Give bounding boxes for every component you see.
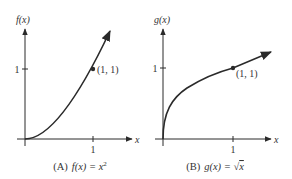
panel-a: 1 1 x f(x) (1, 1) (A)f(x) = x2 — [15, 14, 141, 173]
curve-f-x-squared — [25, 31, 110, 139]
y-tick-label-b: 1 — [153, 63, 158, 74]
caption-b: (B)g(x) = √x — [186, 161, 244, 173]
curve-g-sqrt-x — [163, 52, 271, 139]
x-axis-label-b: x — [273, 134, 279, 145]
y-tick-label-a: 1 — [15, 64, 20, 75]
y-axis-label-b: g(x) — [154, 14, 171, 26]
x-axis-label-a: x — [134, 134, 140, 145]
point-label-b: (1, 1) — [236, 68, 258, 80]
point-1-1-a — [91, 67, 95, 71]
x-tick-label-a: 1 — [91, 144, 96, 155]
x-tick-label-b: 1 — [231, 144, 236, 155]
point-1-1-b — [231, 66, 235, 70]
panel-b: 1 1 x g(x) (1, 1) (B)g(x) = √x — [153, 14, 280, 173]
point-label-a: (1, 1) — [97, 64, 119, 76]
y-axis-label-a: f(x) — [16, 14, 31, 26]
caption-a: (A)f(x) = x2 — [53, 160, 107, 173]
figure: 1 1 x f(x) (1, 1) (A)f(x) = x2 1 1 x g(x… — [0, 0, 292, 179]
